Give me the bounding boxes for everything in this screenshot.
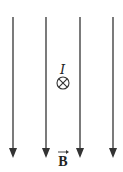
current-into-page-icon xyxy=(57,77,69,89)
arrow-down-icon xyxy=(42,148,50,158)
field-line-1 xyxy=(9,17,17,158)
current-label: I xyxy=(59,62,66,77)
arrow-down-icon xyxy=(9,148,17,158)
arrow-down-icon xyxy=(109,148,117,158)
field-vector-label: B xyxy=(58,150,69,169)
field-label: B xyxy=(58,154,67,169)
field-line-2 xyxy=(42,17,50,158)
magnetic-field-diagram: I B xyxy=(0,0,123,172)
arrow-down-icon xyxy=(76,148,84,158)
field-line-3 xyxy=(76,17,84,158)
field-line-4 xyxy=(109,17,117,158)
